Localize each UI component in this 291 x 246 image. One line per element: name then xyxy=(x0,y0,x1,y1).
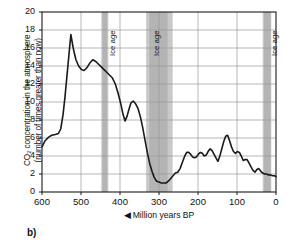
x-tick-label: 300 xyxy=(144,196,174,207)
x-tick-label: 400 xyxy=(105,196,135,207)
y-tick-label: 20 xyxy=(19,6,35,16)
x-tick-label: 0 xyxy=(261,196,291,207)
ice-age-label: Ice age xyxy=(270,30,279,56)
x-tick-label: 600 xyxy=(27,196,57,207)
left-arrow-icon: ◀ xyxy=(124,210,130,220)
y-tick-label: 2 xyxy=(19,168,35,178)
y-tick-label: 14 xyxy=(19,60,35,70)
y-tick-label: 18 xyxy=(19,24,35,34)
ice-age-label: Ice age xyxy=(108,30,117,56)
y-tick-label: 0 xyxy=(19,186,35,196)
x-tick-label: 100 xyxy=(222,196,252,207)
y-tick-label: 10 xyxy=(19,96,35,106)
x-tick-label: 200 xyxy=(183,196,213,207)
x-tick-label: 500 xyxy=(66,196,96,207)
ice-age-label: Ice age xyxy=(152,30,161,56)
y-tick-label: 6 xyxy=(19,132,35,142)
x-axis-title-text: Million years BP xyxy=(133,210,195,220)
x-axis-title: ◀Million years BP xyxy=(42,210,276,220)
y-tick-label: 4 xyxy=(19,150,35,160)
y-tick-label: 16 xyxy=(19,42,35,52)
panel-caption: b) xyxy=(27,227,36,238)
co2-chart-figure: CO2 concentration in the atmosphere (num… xyxy=(0,0,291,246)
y-tick-label: 8 xyxy=(19,114,35,124)
y-tick-label: 12 xyxy=(19,78,35,88)
